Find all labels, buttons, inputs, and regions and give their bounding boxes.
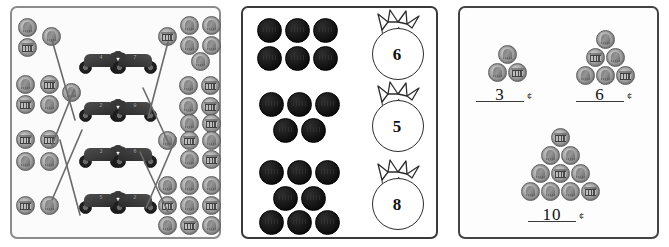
coin-penny (18, 38, 37, 57)
coin-solid (285, 46, 310, 71)
coin-solid (287, 92, 312, 117)
coin-penny (180, 176, 199, 195)
motorcycle-4[interactable]: 9 (112, 100, 158, 122)
answer-line[interactable]: 3 (476, 101, 524, 102)
coin-penny (488, 63, 507, 82)
coin-penny (40, 130, 59, 149)
coin-solid (257, 18, 282, 43)
coin-penny (40, 95, 59, 114)
coin-solid (273, 118, 298, 143)
coin-solid (273, 186, 298, 211)
coin-penny (16, 196, 35, 215)
coin-penny (541, 182, 560, 201)
coin-solid (301, 186, 326, 211)
coin-penny (16, 75, 35, 94)
panel-count-write: 3 ¢ 6 ¢ (448, 0, 669, 247)
coin-penny (158, 216, 177, 235)
coin-penny (551, 128, 570, 147)
bag-label: 8 (372, 180, 422, 230)
answer-value: 6 (595, 86, 605, 103)
coin-penny (180, 196, 199, 215)
coin-penny (180, 16, 199, 35)
coin-penny (16, 130, 35, 149)
coin-penny (179, 76, 198, 95)
coin-penny (180, 150, 199, 169)
coin-solid (287, 210, 312, 235)
cent-symbol: ¢ (627, 91, 632, 101)
money-bag-3[interactable]: 8 (366, 158, 428, 230)
motorcycle-number: 2 (112, 194, 158, 200)
coin-penny (40, 75, 59, 94)
coin-penny (202, 150, 221, 169)
coin-penny (42, 27, 61, 46)
coin-penny (158, 176, 177, 195)
coin-penny (201, 76, 220, 95)
motorcycle-number: 7 (112, 54, 158, 60)
coin-penny (616, 66, 635, 85)
coin-penny (202, 176, 221, 195)
coin-solid (313, 46, 338, 71)
coin-solid (259, 210, 284, 235)
answer-value: 3 (495, 86, 505, 103)
answer-blank-3[interactable]: 10 ¢ (528, 212, 584, 222)
coin-solid (315, 160, 340, 185)
coin-solid (259, 160, 284, 185)
coin-solid (285, 18, 310, 43)
bag-label: 6 (372, 30, 422, 80)
coin-penny (180, 131, 199, 150)
answer-line[interactable]: 6 (576, 101, 624, 102)
panel-matching: 4 7 2 9 (0, 0, 231, 247)
coin-penny (158, 196, 177, 215)
motorcycle-number: 6 (112, 148, 158, 154)
cent-symbol: ¢ (527, 91, 532, 101)
answer-blank-1[interactable]: 3 ¢ (476, 92, 532, 102)
coin-penny (40, 196, 59, 215)
coin-solid (287, 160, 312, 185)
coin-penny (191, 52, 210, 71)
coin-penny (531, 164, 550, 183)
answer-value: 10 (543, 206, 562, 223)
coin-penny (571, 164, 590, 183)
money-bag-1[interactable]: 6 (366, 8, 428, 80)
coin-penny (596, 30, 615, 49)
cent-symbol: ¢ (579, 211, 584, 221)
coin-penny (541, 146, 560, 165)
coin-penny (180, 216, 199, 235)
coin-penny (508, 63, 527, 82)
coin-solid (313, 18, 338, 43)
coin-penny (498, 45, 517, 64)
coin-penny (521, 182, 540, 201)
motorcycle-number: 9 (112, 102, 158, 108)
coin-penny (16, 152, 35, 171)
coin-penny (158, 131, 177, 150)
answer-blank-2[interactable]: 6 ¢ (576, 92, 632, 102)
coin-penny (561, 182, 580, 201)
answer-line[interactable]: 10 (528, 221, 576, 222)
coin-penny (606, 48, 625, 67)
coin-solid (301, 118, 326, 143)
coin-penny (40, 152, 59, 171)
motorcycle-2[interactable]: 7 (112, 52, 158, 74)
coin-penny (16, 95, 35, 114)
coin-penny (581, 182, 600, 201)
coin-penny (596, 66, 615, 85)
money-bag-2[interactable]: 5 (366, 80, 428, 152)
coin-penny (18, 18, 37, 37)
bag-label: 5 (372, 102, 422, 152)
connector-line (60, 140, 80, 215)
coin-penny (561, 146, 580, 165)
coin-penny (551, 164, 570, 183)
coin-penny (586, 48, 605, 67)
coin-penny (202, 131, 221, 150)
motorcycle-8[interactable]: 2 (112, 192, 158, 214)
coin-penny (202, 216, 221, 235)
motorcycle-6[interactable]: 6 (112, 146, 158, 168)
coin-solid (315, 210, 340, 235)
coin-solid (259, 92, 284, 117)
coin-penny (158, 27, 177, 46)
coin-solid (315, 92, 340, 117)
coin-penny (576, 66, 595, 85)
coin-penny (202, 16, 221, 35)
worksheet: 4 7 2 9 (0, 0, 669, 247)
panel-bags: 6 5 (231, 0, 448, 247)
